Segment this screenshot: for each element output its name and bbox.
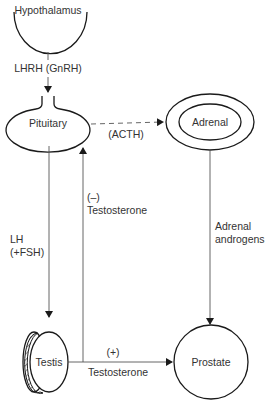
lhrh-edge: LHRH (GnRH) bbox=[14, 52, 82, 92]
hypothalamus-shape bbox=[14, 12, 87, 54]
endocrine-diagram: Hypothalamus LHRH (GnRH) Pituitary (ACTH… bbox=[0, 0, 277, 407]
acth-edge: (ACTH) bbox=[91, 122, 163, 140]
hypothalamus-node: Hypothalamus bbox=[14, 4, 87, 54]
lh-edge: LH (+FSH) bbox=[10, 146, 49, 317]
pituitary-stalk-left bbox=[36, 96, 42, 109]
pituitary-shape bbox=[6, 109, 90, 152]
positive-testosterone-edge: (+) Testosterone bbox=[68, 346, 172, 378]
testis-label: Testis bbox=[36, 356, 63, 368]
lh-label: LH bbox=[10, 233, 23, 245]
prostate-node: Prostate bbox=[174, 325, 248, 399]
positive-testosterone-label: Testosterone bbox=[88, 366, 148, 378]
pituitary-label: Pituitary bbox=[29, 117, 68, 129]
pituitary-node: Pituitary bbox=[6, 96, 90, 152]
negative-feedback-edge: (–) Testosterone bbox=[83, 148, 147, 362]
negative-sign-label: (–) bbox=[87, 191, 100, 203]
fsh-label: (+FSH) bbox=[10, 246, 44, 258]
adrenal-androgens-label-1: Adrenal bbox=[215, 220, 251, 232]
adrenal-androgens-label-2: androgens bbox=[215, 233, 265, 245]
prostate-label: Prostate bbox=[191, 356, 230, 368]
adrenal-androgens-edge: Adrenal androgens bbox=[210, 150, 265, 324]
negative-testosterone-label: Testosterone bbox=[87, 204, 147, 216]
lhrh-label: LHRH (GnRH) bbox=[14, 62, 82, 74]
positive-sign-label: (+) bbox=[106, 346, 119, 358]
adrenal-node: Adrenal bbox=[166, 94, 254, 150]
acth-arrow bbox=[91, 122, 163, 124]
testis-node: Testis bbox=[23, 332, 68, 394]
hypothalamus-label: Hypothalamus bbox=[14, 4, 81, 16]
pituitary-stalk-right bbox=[54, 96, 60, 109]
adrenal-label: Adrenal bbox=[192, 116, 228, 128]
acth-label: (ACTH) bbox=[108, 128, 144, 140]
